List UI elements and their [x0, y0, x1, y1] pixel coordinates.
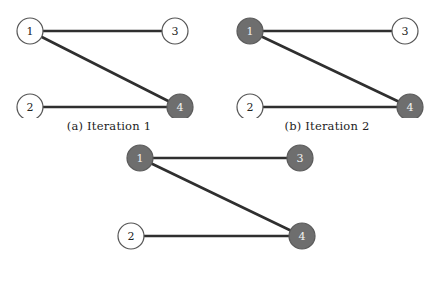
panel-caption-b: (b) Iteration 2: [218, 119, 436, 133]
graph-iteration-2: 1324: [218, 0, 436, 118]
graph-node-label-1: 1: [27, 25, 34, 38]
graph-node-label-1: 1: [137, 152, 144, 165]
panel-caption-a: (a) Iteration 1: [0, 119, 218, 133]
graph-node-label-3: 3: [402, 25, 409, 38]
panel-iteration-3: 1324 (c) Iteration 3: [100, 140, 340, 288]
graph-node-1[interactable]: 1: [237, 18, 263, 44]
graph-node-label-2: 2: [128, 230, 135, 243]
panel-iteration-1: 1324 (a) Iteration 1: [0, 0, 218, 144]
graph-edge-1-4: [250, 31, 410, 107]
graph-node-label-2: 2: [247, 101, 254, 114]
graph-node-label-3: 3: [172, 25, 179, 38]
graph-edge-1-4: [140, 158, 302, 236]
graph-node-4[interactable]: 4: [167, 94, 193, 118]
graph-node-label-1: 1: [247, 25, 254, 38]
graph-node-3[interactable]: 3: [162, 18, 188, 44]
graph-iteration-3: 1324: [100, 140, 340, 260]
graph-node-4[interactable]: 4: [289, 223, 315, 249]
graph-node-3[interactable]: 3: [287, 145, 313, 171]
graph-node-1[interactable]: 1: [127, 145, 153, 171]
graph-node-2[interactable]: 2: [118, 223, 144, 249]
graph-node-2[interactable]: 2: [237, 94, 263, 118]
graph-node-2[interactable]: 2: [17, 94, 43, 118]
graph-node-label-4: 4: [407, 101, 414, 114]
graph-node-3[interactable]: 3: [392, 18, 418, 44]
graph-node-label-3: 3: [297, 152, 304, 165]
graph-node-label-4: 4: [299, 230, 306, 243]
figure-root: 1324 (a) Iteration 1 1324 (b) Iteration …: [0, 0, 436, 288]
graph-node-label-2: 2: [27, 101, 34, 114]
panel-iteration-2: 1324 (b) Iteration 2: [218, 0, 436, 144]
graph-node-label-4: 4: [177, 101, 184, 114]
graph-node-4[interactable]: 4: [397, 94, 423, 118]
graph-node-1[interactable]: 1: [17, 18, 43, 44]
graph-edge-1-4: [30, 31, 180, 107]
graph-iteration-1: 1324: [0, 0, 218, 118]
